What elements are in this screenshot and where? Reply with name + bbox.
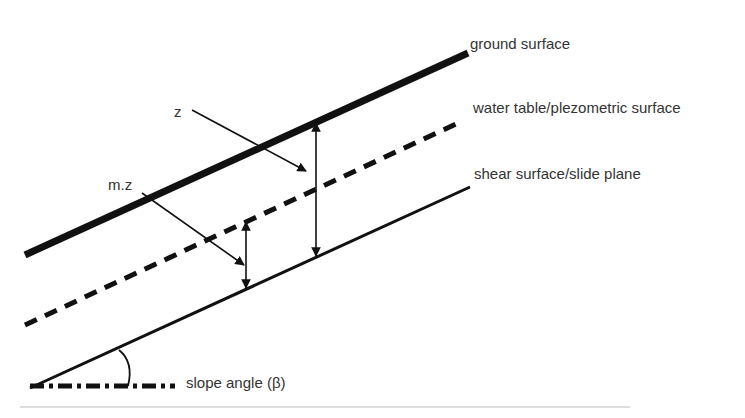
slope-diagram bbox=[0, 0, 745, 418]
shear-surface-line bbox=[30, 187, 470, 388]
z-label: z bbox=[174, 104, 182, 119]
ground-surface-label: ground surface bbox=[470, 36, 570, 51]
mz-label: m.z bbox=[108, 177, 132, 192]
z-leader-arrow bbox=[192, 110, 306, 171]
slope-angle-arc bbox=[119, 350, 130, 386]
water-table-label: water table/plezometric surface bbox=[473, 100, 681, 115]
slope-angle-label: slope angle (β) bbox=[186, 375, 286, 390]
shear-surface-label: shear surface/slide plane bbox=[474, 166, 641, 181]
